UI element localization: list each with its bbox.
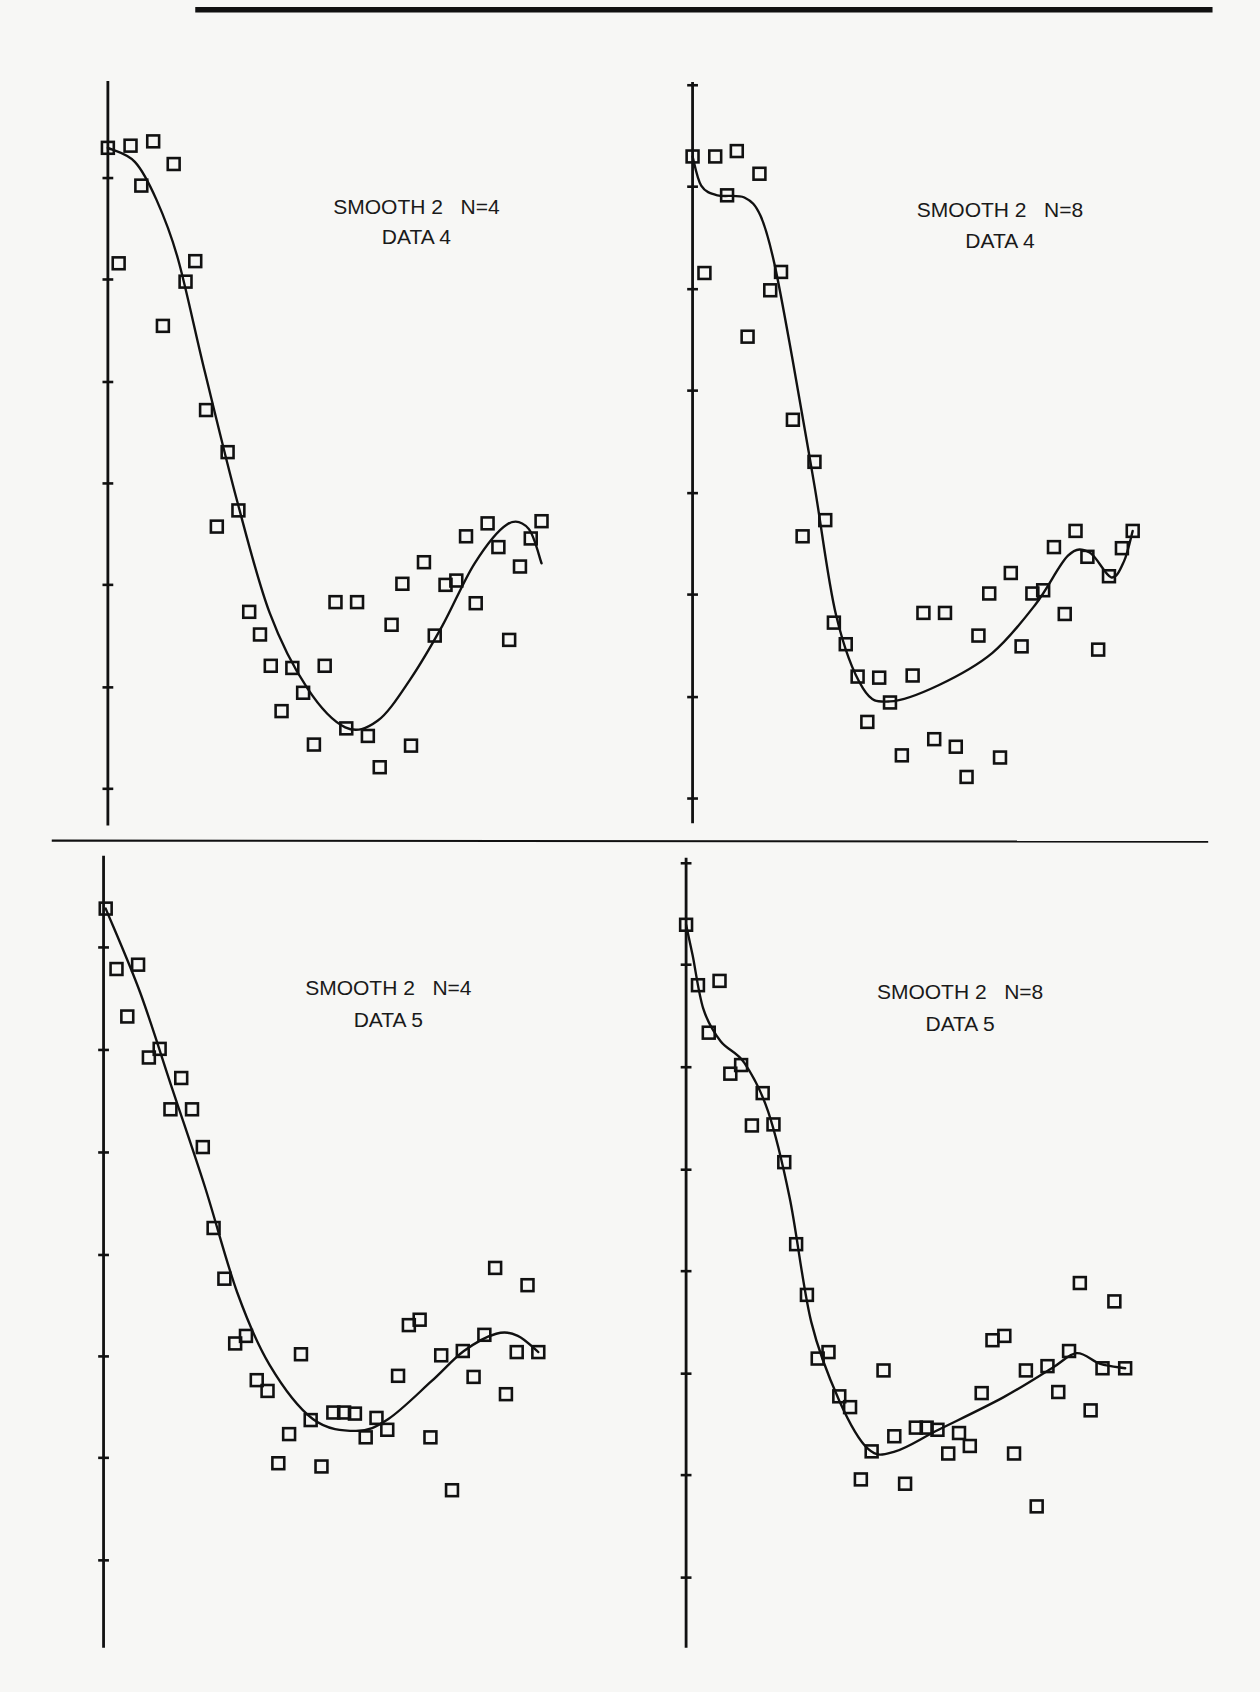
data-point-square-marker [446, 1484, 458, 1496]
data-point-square-marker [482, 517, 494, 529]
data-point-square-marker [186, 1103, 198, 1115]
data-point-square-marker [147, 135, 159, 147]
data-point-square-marker [157, 320, 169, 332]
data-point-square-marker [961, 771, 973, 783]
data-point-square-marker [928, 733, 940, 745]
data-point-square-marker [888, 1430, 900, 1442]
data-point-square-marker [319, 660, 331, 672]
data-point-square-marker [435, 1349, 447, 1361]
data-point-square-marker [878, 1364, 890, 1376]
data-point-square-marker [175, 1072, 187, 1084]
data-point-square-marker [709, 151, 721, 163]
data-point-square-marker [1020, 1364, 1032, 1376]
data-point-square-marker [283, 1428, 295, 1440]
data-point-square-marker [135, 180, 147, 192]
data-point-square-marker [489, 1262, 501, 1274]
data-point-square-marker [1059, 608, 1071, 620]
data-point-square-marker [855, 1473, 867, 1485]
data-point-square-marker [896, 749, 908, 761]
data-point-square-marker [754, 168, 766, 180]
data-point-square-marker [424, 1431, 436, 1443]
data-point-square-marker [1031, 1500, 1043, 1512]
data-point-square-marker [1052, 1386, 1064, 1398]
data-point-square-marker [460, 530, 472, 542]
data-point-square-marker [362, 730, 374, 742]
data-point-square-marker [392, 1370, 404, 1382]
data-point-square-marker [950, 741, 962, 753]
data-point-square-marker [265, 660, 277, 672]
smoothed-curve [686, 925, 1125, 1455]
data-point-square-marker [714, 975, 726, 987]
data-point-square-marker [994, 752, 1006, 764]
data-point-square-marker [953, 1427, 965, 1439]
panel-smooth2-n4-data5: SMOOTH 2 N=4 DATA 5 [98, 856, 544, 1648]
data-point-square-marker [998, 1330, 1010, 1342]
data-point-square-marker [165, 1103, 177, 1115]
panel-subtitle: DATA 4 [382, 225, 452, 248]
panel-title: SMOOTH 2 N=8 [877, 980, 1043, 1003]
data-point-square-marker [470, 597, 482, 609]
panel-smooth2-n8-data5: SMOOTH 2 N=8 DATA 5 [680, 858, 1131, 1648]
data-point-square-marker [503, 634, 515, 646]
data-point-square-marker [113, 257, 125, 269]
data-point-square-marker [1070, 525, 1082, 537]
data-point-square-marker [121, 1011, 133, 1023]
panel-smooth2-n4-data4: SMOOTH 2 N=4 DATA 4 [102, 81, 548, 826]
data-point-square-marker [132, 959, 144, 971]
data-point-square-marker [168, 158, 180, 170]
data-point-square-marker [917, 607, 929, 619]
data-point-square-marker [1016, 640, 1028, 652]
panel-subtitle: DATA 4 [965, 229, 1035, 252]
data-point-square-marker [405, 740, 417, 752]
data-point-square-marker [386, 619, 398, 631]
data-point-square-marker [861, 716, 873, 728]
data-point-square-marker [254, 629, 266, 641]
data-point-square-marker [511, 1346, 523, 1358]
data-point-square-marker [295, 1348, 307, 1360]
smoothed-curve [108, 148, 542, 730]
data-point-square-marker [907, 670, 919, 682]
data-point-square-marker [381, 1424, 393, 1436]
data-point-square-marker [1085, 1404, 1097, 1416]
data-point-square-marker [976, 1387, 988, 1399]
data-point-square-marker [396, 578, 408, 590]
data-point-square-marker [536, 515, 548, 527]
panel-subtitle: DATA 5 [354, 1008, 423, 1031]
data-point-square-marker [468, 1371, 480, 1383]
data-point-square-marker [218, 1273, 230, 1285]
data-point-square-marker [276, 705, 288, 717]
data-point-square-marker [797, 530, 809, 542]
data-point-square-marker [699, 267, 711, 279]
data-point-square-marker [973, 630, 985, 642]
data-point-square-marker [492, 541, 504, 553]
data-point-square-marker [197, 1141, 209, 1153]
panel-title: SMOOTH 2 N=8 [917, 198, 1083, 221]
data-point-square-marker [371, 1412, 383, 1424]
figure-canvas: SMOOTH 2 N=4 DATA 4 SMOOTH 2 N=8 DATA 4 … [0, 0, 1260, 1692]
data-point-square-marker [746, 1120, 758, 1132]
data-point-square-marker [522, 1279, 534, 1291]
data-point-square-marker [787, 414, 799, 426]
panel-divider [52, 841, 1208, 842]
data-point-square-marker [964, 1440, 976, 1452]
data-point-square-marker [873, 672, 885, 684]
data-point-square-marker [764, 284, 776, 296]
data-point-square-marker [125, 140, 137, 152]
data-point-square-marker [243, 606, 255, 618]
data-point-square-marker [272, 1457, 284, 1469]
data-point-square-marker [987, 1334, 999, 1346]
data-point-square-marker [330, 596, 342, 608]
data-point-square-marker [1048, 541, 1060, 553]
panel-subtitle: DATA 5 [925, 1012, 994, 1035]
data-point-square-marker [1074, 1277, 1086, 1289]
data-point-square-marker [1005, 567, 1017, 579]
data-point-square-marker [316, 1461, 328, 1473]
data-point-square-marker [374, 761, 386, 773]
data-point-square-marker [308, 739, 320, 751]
data-point-square-marker [731, 145, 743, 157]
data-point-square-marker [200, 404, 212, 416]
data-point-square-marker [351, 596, 363, 608]
data-point-square-marker [983, 588, 995, 600]
panel-smooth2-n8-data4: SMOOTH 2 N=8 DATA 4 [687, 82, 1139, 823]
data-point-square-marker [418, 556, 430, 568]
